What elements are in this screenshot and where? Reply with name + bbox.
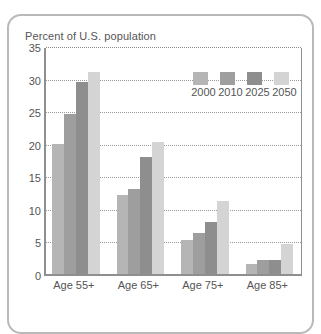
bar xyxy=(193,233,205,274)
x-tick-label: Age 65+ xyxy=(118,279,159,291)
legend-swatch xyxy=(193,72,208,85)
x-tick-label: Age 85+ xyxy=(247,279,288,291)
chart-plot: 05101520253035 Age 55+Age 65+Age 75+Age … xyxy=(17,48,309,304)
y-tick-label: 5 xyxy=(35,238,41,249)
bar xyxy=(128,189,140,274)
bar xyxy=(217,201,229,274)
x-axis: Age 55+Age 65+Age 75+Age 85+ xyxy=(44,279,302,297)
bar xyxy=(88,72,100,274)
y-tick-label: 20 xyxy=(29,140,41,151)
bar xyxy=(257,260,269,274)
y-axis: 05101520253035 xyxy=(17,48,41,276)
bar xyxy=(117,195,129,274)
y-tick-label: 30 xyxy=(29,75,41,86)
x-tick-label: Age 75+ xyxy=(182,279,223,291)
legend-swatch xyxy=(220,72,235,85)
y-tick-label: 25 xyxy=(29,108,41,119)
y-tick-label: 35 xyxy=(29,43,41,54)
legend-label: 2025 xyxy=(244,86,271,98)
bar-group xyxy=(117,48,165,274)
legend-swatch xyxy=(274,72,289,85)
legend-label: 2010 xyxy=(217,86,244,98)
chart-title: Percent of U.S. population xyxy=(25,30,156,42)
y-tick-label: 10 xyxy=(29,205,41,216)
legend-swatches xyxy=(193,72,289,85)
bar-group xyxy=(52,48,100,274)
y-tick-label: 15 xyxy=(29,173,41,184)
figure-card: Percent of U.S. population 0510152025303… xyxy=(7,14,314,334)
chart-legend: 2000201020252050 xyxy=(190,72,298,98)
bar xyxy=(64,114,76,274)
legend-swatch xyxy=(247,72,262,85)
bar xyxy=(205,222,217,274)
bar xyxy=(181,240,193,274)
x-tick-label: Age 55+ xyxy=(53,279,94,291)
bar xyxy=(246,264,258,274)
bar xyxy=(152,142,164,274)
bar xyxy=(52,144,64,274)
y-tick-label: 0 xyxy=(35,271,41,282)
legend-label: 2000 xyxy=(190,86,217,98)
legend-label: 2050 xyxy=(271,86,298,98)
bar xyxy=(76,82,88,274)
legend-labels: 2000201020252050 xyxy=(190,86,298,98)
bar xyxy=(269,260,281,274)
bar xyxy=(140,157,152,274)
bar xyxy=(281,244,293,274)
